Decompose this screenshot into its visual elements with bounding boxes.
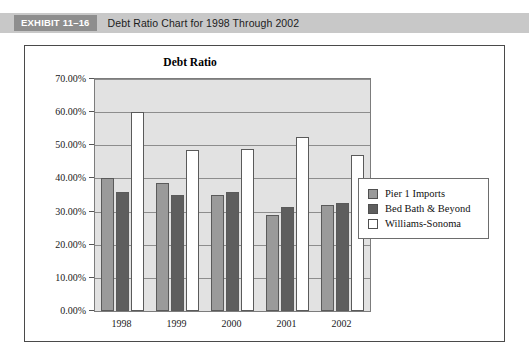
y-axis-tick bbox=[89, 277, 94, 278]
bar-group bbox=[266, 79, 309, 311]
x-axis-tick-label: 1999 bbox=[167, 318, 187, 329]
bar bbox=[101, 178, 114, 311]
bar bbox=[116, 192, 129, 311]
plot-area bbox=[94, 78, 371, 312]
bar bbox=[266, 215, 279, 311]
bar-group bbox=[101, 79, 144, 311]
bar-group bbox=[156, 79, 199, 311]
x-axis-tick-label: 2000 bbox=[222, 318, 242, 329]
bar bbox=[226, 192, 239, 311]
legend-item-label: Williams-Sonoma bbox=[385, 218, 461, 229]
y-axis-tick-label: 60.00% bbox=[55, 106, 86, 117]
y-axis-tick-label: 10.00% bbox=[55, 271, 86, 282]
bar bbox=[156, 183, 169, 311]
bar bbox=[321, 205, 334, 311]
bar bbox=[131, 112, 144, 311]
y-axis-tick bbox=[89, 310, 94, 311]
chart-title: Debt Ratio bbox=[25, 56, 355, 68]
bar bbox=[281, 207, 294, 311]
chart-legend: Pier 1 ImportsBed Bath & BeyondWilliams-… bbox=[358, 178, 489, 239]
chart-figure: Debt Ratio 0.00%10.00%20.00%30.00%40.00%… bbox=[24, 45, 505, 342]
y-axis-tick-label: 50.00% bbox=[55, 139, 86, 150]
bar bbox=[336, 203, 349, 311]
bar bbox=[171, 195, 184, 311]
bar bbox=[241, 149, 254, 311]
exhibit-title: Debt Ratio Chart for 1998 Through 2002 bbox=[108, 17, 300, 29]
legend-item-label: Pier 1 Imports bbox=[385, 188, 445, 199]
legend-swatch-bed-bath-beyond bbox=[368, 204, 378, 214]
y-axis-tick bbox=[89, 211, 94, 212]
legend-item-label: Bed Bath & Beyond bbox=[385, 203, 470, 214]
y-axis-tick bbox=[89, 111, 94, 112]
y-axis-tick-label: 40.00% bbox=[55, 172, 86, 183]
x-axis-tick-label: 2001 bbox=[277, 318, 297, 329]
bar-group bbox=[211, 79, 254, 311]
bars-layer bbox=[95, 79, 370, 311]
y-axis-tick-label: 30.00% bbox=[55, 205, 86, 216]
exhibit-number-tag: EXHIBIT 11–16 bbox=[14, 15, 97, 31]
y-axis-tick-label: 20.00% bbox=[55, 238, 86, 249]
y-axis-tick bbox=[89, 78, 94, 79]
bar bbox=[296, 137, 309, 311]
plot-wrapper: 0.00%10.00%20.00%30.00%40.00%50.00%60.00… bbox=[94, 78, 371, 312]
exhibit-header-banner: EXHIBIT 11–16 Debt Ratio Chart for 1998 … bbox=[0, 13, 529, 33]
bar bbox=[211, 195, 224, 311]
y-axis-tick bbox=[89, 177, 94, 178]
y-axis-tick bbox=[89, 244, 94, 245]
legend-item: Pier 1 Imports bbox=[368, 186, 480, 201]
y-axis-tick-label: 70.00% bbox=[55, 73, 86, 84]
legend-swatch-williams-sonoma bbox=[368, 219, 378, 229]
y-axis-tick bbox=[89, 144, 94, 145]
legend-swatch-pier-1-imports bbox=[368, 189, 378, 199]
x-axis-tick-label: 2002 bbox=[332, 318, 352, 329]
bar bbox=[186, 150, 199, 311]
legend-item: Williams-Sonoma bbox=[368, 216, 480, 231]
y-axis-tick-label: 0.00% bbox=[60, 305, 86, 316]
legend-item: Bed Bath & Beyond bbox=[368, 201, 480, 216]
x-axis-tick-label: 1998 bbox=[112, 318, 132, 329]
